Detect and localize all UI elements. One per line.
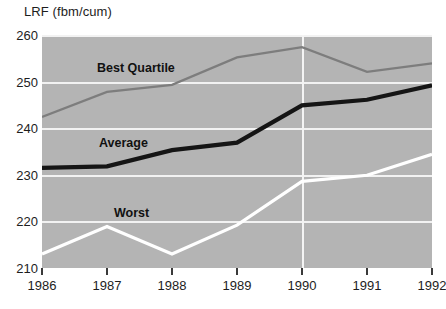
series-line-average [42, 85, 432, 167]
y-tick-label: 230 [4, 169, 38, 182]
y-tick-label: 220 [4, 215, 38, 228]
series-label-best-quartile: Best Quartile [97, 61, 175, 75]
series-label-worst: Worst [114, 206, 149, 220]
x-tick [41, 268, 43, 275]
chart-axis-title: LRF (fbm/cum) [24, 4, 112, 19]
x-tick-label: 1990 [288, 278, 317, 293]
plot-area: Best Quartile Average Worst [42, 35, 432, 268]
x-tick [171, 268, 173, 275]
x-tick-label: 1987 [93, 278, 122, 293]
x-tick-label: 1986 [28, 278, 57, 293]
x-tick [301, 268, 303, 275]
y-tick-label: 260 [4, 29, 38, 42]
x-tick-label: 1988 [158, 278, 187, 293]
series-line-worst [42, 154, 432, 254]
y-tick-label: 210 [4, 262, 38, 275]
y-tick-label: 250 [4, 76, 38, 89]
x-tick [366, 268, 368, 275]
series-label-average: Average [99, 136, 148, 150]
figure-caption [18, 296, 438, 309]
series-line-best-quartile [42, 47, 432, 117]
y-tick-label: 240 [4, 122, 38, 135]
y-axis: 260 250 240 230 220 210 [0, 35, 38, 268]
x-tick-label: 1989 [223, 278, 252, 293]
x-tick-label: 1992 [418, 278, 446, 293]
x-tick [106, 268, 108, 275]
x-tick [236, 268, 238, 275]
x-tick [431, 268, 433, 275]
x-tick-label: 1991 [353, 278, 382, 293]
